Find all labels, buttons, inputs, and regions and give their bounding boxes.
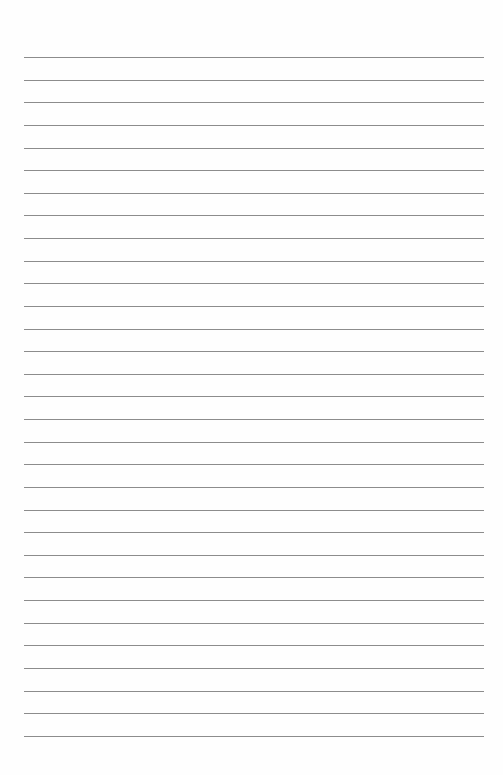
ruled-line xyxy=(24,532,484,533)
ruled-line xyxy=(24,102,484,103)
ruled-line xyxy=(24,193,484,194)
ruled-line xyxy=(24,577,484,578)
ruled-line xyxy=(24,623,484,624)
ruled-line xyxy=(24,713,484,714)
lined-paper-page xyxy=(0,0,503,775)
ruled-line xyxy=(24,442,484,443)
ruled-line xyxy=(24,600,484,601)
ruled-line xyxy=(24,691,484,692)
ruled-line xyxy=(24,148,484,149)
ruled-line xyxy=(24,464,484,465)
ruled-line xyxy=(24,80,484,81)
ruled-line xyxy=(24,736,484,737)
ruled-line xyxy=(24,170,484,171)
ruled-line xyxy=(24,555,484,556)
ruled-line xyxy=(24,329,484,330)
ruled-line xyxy=(24,215,484,216)
ruled-line xyxy=(24,668,484,669)
ruled-line xyxy=(24,283,484,284)
ruled-line xyxy=(24,57,484,58)
ruled-line xyxy=(24,238,484,239)
ruled-line xyxy=(24,374,484,375)
ruled-line xyxy=(24,306,484,307)
ruled-line xyxy=(24,419,484,420)
ruled-line xyxy=(24,645,484,646)
ruled-line xyxy=(24,510,484,511)
ruled-line xyxy=(24,261,484,262)
ruled-line xyxy=(24,396,484,397)
ruled-line xyxy=(24,487,484,488)
ruled-line xyxy=(24,351,484,352)
ruled-line xyxy=(24,125,484,126)
